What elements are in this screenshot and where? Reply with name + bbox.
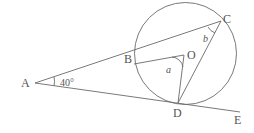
label-angle-a: a bbox=[166, 64, 171, 75]
geometry-diagram: A B C O D E 40° a b bbox=[0, 0, 254, 133]
segment-bo bbox=[134, 55, 184, 64]
angle-arc-c bbox=[208, 27, 215, 33]
label-point-c: C bbox=[223, 12, 231, 26]
angle-arc-a bbox=[54, 77, 55, 86]
label-point-b: B bbox=[124, 52, 132, 66]
angle-arc-o bbox=[172, 57, 183, 67]
label-angle-40: 40° bbox=[60, 77, 74, 88]
label-angle-b: b bbox=[203, 33, 208, 44]
label-point-a: A bbox=[21, 76, 30, 90]
label-point-e: E bbox=[234, 113, 241, 127]
label-point-d: D bbox=[173, 106, 182, 120]
label-point-o: O bbox=[187, 48, 196, 62]
